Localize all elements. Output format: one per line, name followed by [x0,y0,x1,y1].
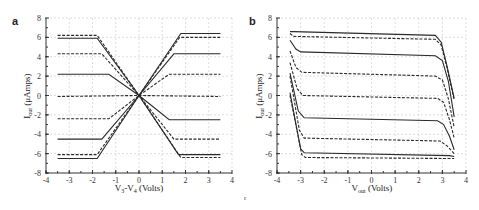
svg-text:2: 2 [417,176,421,185]
svg-text:6: 6 [268,33,272,42]
series-b [290,32,454,159]
svg-text:-4: -4 [34,130,41,139]
svg-text:-2: -2 [321,176,328,185]
svg-text:-3: -3 [66,176,73,185]
y-axis-label-a: Iout (μAmps) [22,73,33,118]
panel-label-b: b [249,15,256,27]
footnote-mark: r [244,194,247,202]
svg-text:6: 6 [37,33,41,42]
svg-text:8: 8 [268,14,272,23]
svg-text:2: 2 [184,176,188,185]
figure: a -4-3-2-101234-8-6-4-202468 V3-V4 (Volt… [0,0,479,210]
chart-panel-b: b -4-3-2-101234-8-6-4-202468 Vout (Volts… [249,14,468,194]
svg-text:-2: -2 [89,176,96,185]
svg-text:-2: -2 [265,111,272,120]
series-curve3 [290,40,454,117]
series-curve2 [290,34,454,101]
svg-text:-4: -4 [265,130,272,139]
svg-text:0: 0 [37,92,41,101]
svg-text:-3: -3 [297,176,304,185]
y-axis-label-b: Iout (μAmps) [254,73,265,118]
svg-text:0: 0 [268,92,272,101]
svg-text:8: 8 [37,14,41,23]
series-curve6 [58,74,221,120]
svg-text:4: 4 [230,176,234,185]
series-curve8 [290,93,454,157]
svg-text:-8: -8 [34,169,41,178]
svg-text:4: 4 [37,53,41,62]
svg-text:-4: -4 [274,176,281,185]
chart-panel-a: a -4-3-2-101234-8-6-4-202468 V3-V4 (Volt… [12,14,234,194]
x-axis-label-a: V3-V4 (Volts) [115,183,164,194]
x-axis-label-b: Vout (Volts) [352,183,393,194]
svg-text:-6: -6 [34,150,41,159]
svg-text:2: 2 [37,72,41,81]
svg-text:-2: -2 [34,111,41,120]
series-curve4 [290,51,454,128]
series-curve9 [290,96,454,159]
svg-text:-6: -6 [265,150,272,159]
svg-text:-1: -1 [345,176,352,185]
series-curve1 [290,32,454,99]
svg-text:1: 1 [393,176,397,185]
svg-text:3: 3 [440,176,444,185]
svg-text:2: 2 [268,72,272,81]
svg-text:4: 4 [268,53,272,62]
svg-text:4: 4 [464,176,468,185]
svg-text:-8: -8 [265,169,272,178]
svg-text:-4: -4 [43,176,50,185]
panel-label-a: a [12,15,19,27]
svg-text:3: 3 [207,176,211,185]
